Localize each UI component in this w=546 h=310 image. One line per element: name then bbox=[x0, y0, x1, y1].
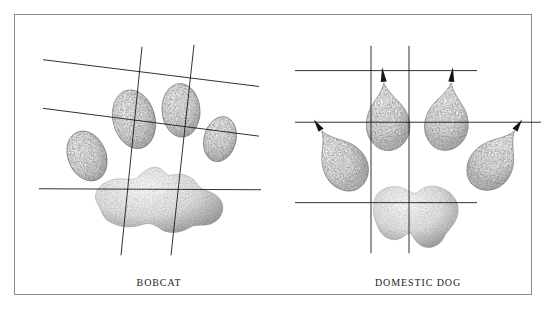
dog-toe-front-left bbox=[360, 65, 412, 153]
dog-toe-outer-right bbox=[458, 107, 540, 199]
bobcat-track-illustration bbox=[29, 15, 289, 294]
panel-bobcat: BOBCAT bbox=[29, 15, 289, 294]
bobcat-caption: BOBCAT bbox=[29, 277, 289, 288]
dog-claw-front-left bbox=[379, 67, 387, 82]
bobcat-paw-pads bbox=[60, 82, 241, 232]
bobcat-grid-horizontal-bottom bbox=[39, 189, 261, 190]
bobcat-heel-pad bbox=[95, 167, 223, 232]
figure-frame: BOBCAT bbox=[14, 14, 532, 295]
bobcat-toe-outer-left bbox=[60, 125, 115, 187]
dog-paw-pads bbox=[296, 65, 540, 248]
dog-track-illustration bbox=[289, 15, 546, 294]
bobcat-toe-right bbox=[160, 82, 202, 138]
dog-heel-pad bbox=[373, 186, 458, 248]
dog-claw-outer-right bbox=[512, 118, 524, 132]
dog-toe-outer-left bbox=[296, 108, 378, 200]
figure-plate: BOBCAT bbox=[0, 0, 546, 310]
bobcat-toe-outer-right bbox=[199, 113, 241, 165]
bobcat-toe-left bbox=[106, 85, 161, 153]
dog-claw-front-right bbox=[448, 67, 456, 82]
domestic-dog-caption: DOMESTIC DOG bbox=[289, 277, 546, 288]
dog-toe-front-right bbox=[422, 65, 474, 153]
panel-domestic-dog: DOMESTIC DOG bbox=[289, 15, 546, 294]
bobcat-grid-horizontal-top bbox=[43, 60, 259, 87]
dog-claw-outer-left bbox=[311, 118, 323, 132]
